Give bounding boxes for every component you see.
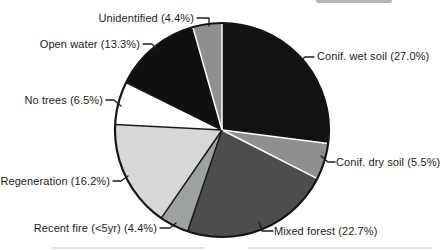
slice-label-mixed-forest: Mixed forest (22.7%) [274,225,377,238]
scan-artifact-cropped-caption-left [52,247,205,249]
slice-label-conif-dry-soil: Conif. dry soil (5.5%) [336,156,440,169]
slice-label-regeneration: Regeneration (16.2%) [0,175,110,188]
slice-label-unidentified: Unidentified (4.4%) [99,12,194,25]
slice-label-recent-fire: Recent fire (<5yr) (4.4%) [34,222,157,235]
scan-artifact-cropped-caption-right [248,247,432,249]
slice-label-conif-wet-soil: Conif. wet soil (27.0%) [317,50,429,63]
scan-artifact-top-edge [316,0,392,3]
slice-label-no-trees: No trees (6.5%) [24,94,103,107]
pie-chart-figure: Conif. wet soil (27.0%) Conif. dry soil … [0,0,440,250]
pie-slice-conif-wet-soil [222,23,329,143]
slice-label-open-water: Open water (13.3%) [40,38,140,51]
